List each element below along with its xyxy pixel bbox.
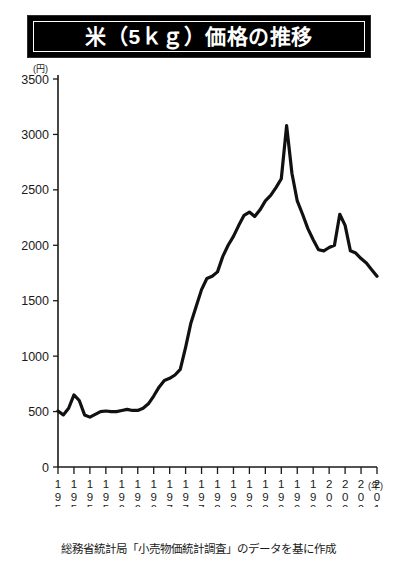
x-tick-digit: 6 [150,503,156,507]
x-tick-label: 1971 [166,478,172,507]
x-tick-label: 1992 [278,478,284,507]
line-chart-svg: 0500100015002000250030003500 19501953195… [0,57,397,507]
chart-title-banner: 米（5ｋｇ）価格の推移 [28,16,370,57]
x-tick-digit: 7 [182,503,188,507]
x-tick-digit: 1 [71,478,77,490]
x-tick-label: 1977 [198,478,204,507]
y-axis-unit-label: (円) [33,62,48,75]
x-tick-digit: 9 [262,491,268,503]
chart-area: (円) (年) 0500100015002000250030003500 195… [0,57,397,507]
x-tick-digit: 1 [182,478,188,490]
x-tick-digit: 1 [374,503,380,507]
x-tick-digit: 9 [294,491,300,503]
x-tick-digit: 9 [278,503,284,507]
x-tick-label: 1983 [230,478,236,507]
x-tick-label: 1962 [119,478,125,507]
x-tick-digit: 7 [166,503,172,507]
x-tick-label: 1989 [262,478,268,507]
y-tick-label: 3000 [21,128,49,142]
x-tick-label: 1965 [135,478,141,507]
x-tick-digit: 1 [246,478,252,490]
x-tick-digit: 5 [71,503,77,507]
x-tick-digit: 9 [87,491,93,503]
x-tick-digit: 1 [230,478,236,490]
x-tick-label: 1998 [310,478,316,507]
x-tick-label: 2007 [358,478,364,507]
x-tick-digit: 0 [358,503,364,507]
y-tick-label: 500 [28,405,49,419]
x-tick-label: 1959 [103,478,109,507]
x-tick-label: 1953 [71,478,77,507]
x-tick-digit: 7 [198,503,204,507]
y-tick-label: 1500 [21,294,49,308]
x-tick-digit: 0 [342,491,348,503]
x-tick-digit: 8 [262,503,268,507]
x-tick-digit: 8 [246,503,252,507]
y-tick-label: 2500 [21,183,49,197]
x-tick-digit: 1 [55,478,61,490]
x-tick-digit: 1 [87,478,93,490]
x-tick-digit: 9 [71,491,77,503]
x-tick-digit: 1 [166,478,172,490]
x-tick-digit: 1 [135,478,141,490]
x-tick-digit: 9 [166,491,172,503]
x-tick-digit: 9 [230,491,236,503]
x-tick-digit: 2 [326,478,332,490]
x-tick-label: 2004 [342,478,349,507]
x-tick-label: 1995 [294,478,300,507]
chart-page: 米（5ｋｇ）価格の推移 (円) (年) 05001000150020002500… [0,0,397,567]
x-tick-digit: 0 [374,491,380,503]
source-note: 総務省統計局「小売物価統計調査」のデータを基に作成 [0,540,397,556]
x-tick-digit: 9 [310,503,316,507]
x-tick-digit: 1 [278,478,284,490]
x-tick-digit: 0 [326,491,332,503]
page-title: 米（5ｋｇ）価格の推移 [85,26,312,47]
y-tick-label: 2000 [21,239,49,253]
x-tick-digit: 2 [358,478,364,490]
x-tick-digit: 1 [262,478,268,490]
y-axis: 0500100015002000250030003500 [21,73,58,475]
x-tick-digit: 9 [150,491,156,503]
x-tick-digit: 2 [342,478,348,490]
x-tick-digit: 9 [182,491,188,503]
data-series-group [58,126,377,418]
x-tick-digit: 9 [214,491,220,503]
x-tick-digit: 9 [55,491,61,503]
y-tick-label: 1000 [21,350,49,364]
x-axis-unit-label: (年) [368,479,383,492]
x-tick-digit: 8 [214,503,220,507]
x-tick-digit: 1 [198,478,204,490]
x-tick-digit: 5 [87,503,93,507]
data-line-series-0 [58,126,377,418]
x-tick-label: 1980 [214,478,220,507]
x-tick-digit: 1 [150,478,156,490]
x-tick-digit: 0 [342,503,348,507]
x-tick-digit: 1 [310,478,316,490]
x-tick-label: 1950 [55,478,61,507]
x-tick-digit: 1 [214,478,220,490]
x-tick-digit: 5 [103,503,109,507]
x-tick-digit: 8 [230,503,236,507]
x-tick-digit: 9 [135,491,141,503]
x-tick-label: 1968 [150,478,156,507]
x-tick-digit: 6 [135,503,141,507]
x-tick-digit: 9 [310,491,316,503]
x-tick-label: 2001 [326,478,332,507]
x-tick-digit: 0 [358,491,364,503]
x-tick-label: 1986 [246,478,252,507]
x-tick-digit: 9 [198,491,204,503]
y-tick-label: 0 [42,461,49,475]
x-tick-digit: 5 [55,503,61,507]
x-tick-digit: 9 [119,491,125,503]
x-tick-digit: 9 [246,491,252,503]
x-tick-digit: 0 [326,503,332,507]
x-tick-digit: 9 [103,491,109,503]
x-tick-label: 1974 [182,478,189,507]
x-tick-digit: 9 [278,491,284,503]
x-tick-label: 1956 [87,478,93,507]
x-axis: 1950195319561959196219651968197119741977… [55,467,380,507]
x-tick-digit: 1 [119,478,125,490]
x-tick-digit: 1 [294,478,300,490]
x-tick-digit: 6 [119,503,125,507]
x-tick-digit: 9 [294,503,300,507]
